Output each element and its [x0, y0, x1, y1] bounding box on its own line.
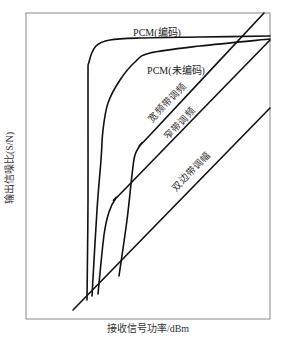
snr-vs-received-power-chart: PCM(编码) PCM(未编码) 窄带调频 宽频带调频 双边带调幅 接收信号功率…	[0, 0, 283, 340]
label-pcm-uncoded: PCM(未编码)	[147, 64, 205, 77]
label-pcm-coded: PCM(编码)	[133, 26, 181, 39]
x-axis-label: 接收信号功率/dBm	[107, 322, 189, 334]
curve-narrowband-fm	[98, 40, 270, 294]
label-dsb-am: 双边带调幅	[170, 149, 213, 193]
curves-group	[73, 13, 270, 310]
y-axis-label: 输出信噪比(S/N)	[3, 132, 16, 204]
curve-pcm-uncoded	[92, 39, 270, 296]
curve-wideband-fm	[119, 13, 264, 276]
